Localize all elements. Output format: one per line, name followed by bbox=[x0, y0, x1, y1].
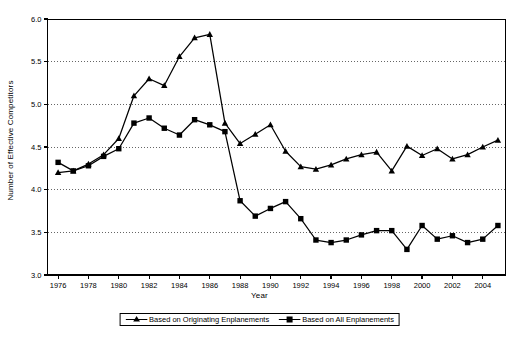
svg-text:1978: 1978 bbox=[80, 281, 97, 290]
svg-text:2002: 2002 bbox=[444, 281, 461, 290]
svg-text:2004: 2004 bbox=[474, 281, 491, 290]
svg-text:1982: 1982 bbox=[141, 281, 158, 290]
svg-text:1992: 1992 bbox=[292, 281, 309, 290]
svg-text:5.0: 5.0 bbox=[31, 100, 41, 109]
y-axis-label: Number of Effective Competitors bbox=[6, 80, 15, 200]
svg-text:1988: 1988 bbox=[232, 281, 249, 290]
svg-text:3.0: 3.0 bbox=[31, 271, 41, 280]
svg-text:1998: 1998 bbox=[383, 281, 400, 290]
svg-text:3.5: 3.5 bbox=[31, 228, 41, 237]
chart-legend: Based on Originating Enplanements Based … bbox=[119, 313, 400, 326]
x-axis-label: Year bbox=[0, 291, 519, 300]
chart-container: 3.03.54.04.55.05.56.01976197819801982198… bbox=[0, 0, 519, 343]
y-axis-label-wrapper: Number of Effective Competitors bbox=[2, 0, 18, 280]
legend-label-all: Based on All Enplanements bbox=[302, 316, 394, 324]
legend-item-all: Based on All Enplanements bbox=[278, 315, 394, 324]
svg-text:4.0: 4.0 bbox=[31, 185, 41, 194]
svg-text:1984: 1984 bbox=[171, 281, 188, 290]
svg-text:2000: 2000 bbox=[414, 281, 431, 290]
legend-item-originating: Based on Originating Enplanements bbox=[125, 315, 269, 324]
svg-text:1996: 1996 bbox=[353, 281, 370, 290]
svg-text:1990: 1990 bbox=[262, 281, 279, 290]
svg-text:1986: 1986 bbox=[201, 281, 218, 290]
svg-text:5.5: 5.5 bbox=[31, 57, 41, 66]
triangle-marker-icon bbox=[125, 315, 147, 324]
svg-text:1980: 1980 bbox=[110, 281, 127, 290]
legend-label-originating: Based on Originating Enplanements bbox=[149, 316, 269, 324]
svg-text:1976: 1976 bbox=[50, 281, 67, 290]
svg-text:1994: 1994 bbox=[323, 281, 340, 290]
svg-text:6.0: 6.0 bbox=[31, 15, 41, 24]
square-marker-icon bbox=[278, 315, 300, 324]
svg-text:4.5: 4.5 bbox=[31, 143, 41, 152]
